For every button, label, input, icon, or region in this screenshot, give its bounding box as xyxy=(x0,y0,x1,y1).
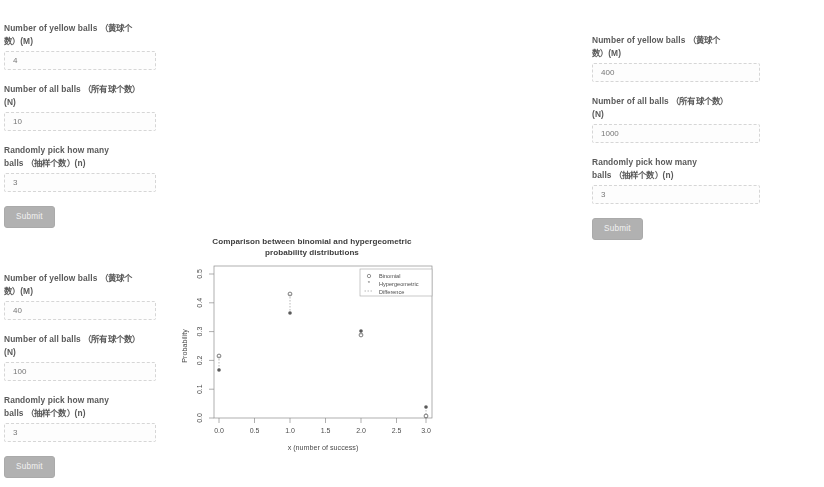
pick-balls-label-line2: balls （抽样个数）(n) xyxy=(592,170,674,180)
all-balls-label-3: Number of all balls （所有球个数） (N) xyxy=(4,333,156,358)
svg-text:0.5: 0.5 xyxy=(196,269,203,279)
pick-balls-label-1: Randomly pick how many balls （抽样个数）(n) xyxy=(4,144,156,169)
svg-text:3.0: 3.0 xyxy=(421,427,431,434)
svg-text:Hypergeometric: Hypergeometric xyxy=(379,281,419,287)
svg-text:x (number of success): x (number of success) xyxy=(288,443,359,452)
all-balls-input-3[interactable]: 100 xyxy=(4,362,156,381)
svg-text:Binomial: Binomial xyxy=(379,273,400,279)
svg-text:0.3: 0.3 xyxy=(196,327,203,337)
pick-balls-label-3: Randomly pick how many balls （抽样个数）(n) xyxy=(4,394,156,419)
pick-balls-label-line1: Randomly pick how many xyxy=(4,145,109,155)
pick-balls-label-2: Randomly pick how many balls （抽样个数）(n) xyxy=(592,156,760,181)
all-balls-label-line2: (N) xyxy=(4,347,16,357)
pick-balls-label-line2: balls （抽样个数）(n) xyxy=(4,158,86,168)
all-balls-label-line1: Number of all balls （所有球个数） xyxy=(592,96,728,106)
yellow-balls-label-1: Number of yellow balls （黄球个 数）(M) xyxy=(4,22,156,47)
yellow-balls-input-2[interactable]: 400 xyxy=(592,63,760,82)
svg-text:0.0: 0.0 xyxy=(214,427,224,434)
yellow-balls-label-line1: Number of yellow balls （黄球个 xyxy=(592,35,720,45)
submit-button-2[interactable]: Submit xyxy=(592,218,643,240)
yellow-balls-label-line2: 数）(M) xyxy=(592,48,621,58)
yellow-balls-label-line2: 数）(M) xyxy=(4,36,33,46)
yellow-balls-label-line2: 数）(M) xyxy=(4,286,33,296)
app-grid: Number of yellow balls （黄球个 数）(M) 4 Numb… xyxy=(0,0,824,487)
svg-text:1.0: 1.0 xyxy=(285,427,295,434)
svg-text:Difference: Difference xyxy=(379,289,404,295)
all-balls-label-line1: Number of all balls （所有球个数） xyxy=(4,334,140,344)
yellow-balls-label-line1: Number of yellow balls （黄球个 xyxy=(4,273,132,283)
chart-svg-1: 0.0 0.1 0.2 0.3 0.4 0.5 Probability 0.0 xyxy=(176,236,448,468)
svg-text:2.0: 2.0 xyxy=(356,427,366,434)
svg-text:0.0: 0.0 xyxy=(196,413,203,423)
svg-text:Probability: Probability xyxy=(180,329,189,363)
yellow-balls-label-line1: Number of yellow balls （黄球个 xyxy=(4,23,132,33)
yellow-balls-input-3[interactable]: 40 xyxy=(4,301,156,320)
panel-divider-vertical-2 xyxy=(0,464,1,487)
svg-text:2.5: 2.5 xyxy=(392,427,402,434)
all-balls-label-line1: Number of all balls （所有球个数） xyxy=(4,84,140,94)
form-panel-2: Number of yellow balls （黄球个 数）(M) 400 Nu… xyxy=(592,34,760,240)
panel-divider-vertical-1 xyxy=(0,0,1,232)
pick-balls-label-line1: Randomly pick how many xyxy=(592,157,697,167)
svg-text:0.2: 0.2 xyxy=(196,355,203,365)
pick-balls-input-3[interactable]: 3 xyxy=(4,423,156,442)
pick-balls-input-2[interactable]: 3 xyxy=(592,185,760,204)
all-balls-label-line2: (N) xyxy=(4,97,16,107)
yellow-balls-label-3: Number of yellow balls （黄球个 数）(M) xyxy=(4,272,156,297)
all-balls-input-1[interactable]: 10 xyxy=(4,112,156,131)
chart-top: Comparison between binomial and hypergeo… xyxy=(176,236,448,468)
form-panel-1: Number of yellow balls （黄球个 数）(M) 4 Numb… xyxy=(4,22,156,228)
all-balls-input-2[interactable]: 1000 xyxy=(592,124,760,143)
all-balls-label-1: Number of all balls （所有球个数） (N) xyxy=(4,83,156,108)
svg-text:0.4: 0.4 xyxy=(196,298,203,308)
submit-button-1[interactable]: Submit xyxy=(4,206,55,228)
yellow-balls-label-2: Number of yellow balls （黄球个 数）(M) xyxy=(592,34,760,59)
all-balls-label-2: Number of all balls （所有球个数） (N) xyxy=(592,95,760,120)
svg-text:1.5: 1.5 xyxy=(321,427,331,434)
pick-balls-input-1[interactable]: 3 xyxy=(4,173,156,192)
svg-text:0.5: 0.5 xyxy=(250,427,260,434)
pick-balls-label-line1: Randomly pick how many xyxy=(4,395,109,405)
svg-text:0.1: 0.1 xyxy=(196,384,203,394)
pick-balls-label-line2: balls （抽样个数）(n) xyxy=(4,408,86,418)
form-panel-3: Number of yellow balls （黄球个 数）(M) 40 Num… xyxy=(4,272,156,478)
all-balls-label-line2: (N) xyxy=(592,109,604,119)
submit-button-3[interactable]: Submit xyxy=(4,456,55,478)
yellow-balls-input-1[interactable]: 4 xyxy=(4,51,156,70)
